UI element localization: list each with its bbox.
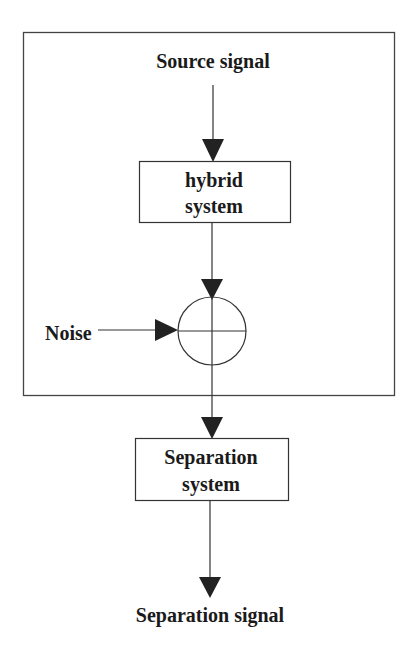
separation-signal-label: Separation signal <box>136 604 285 627</box>
signal-separation-diagram: Source signal hybrid system Noise Separa… <box>0 0 406 654</box>
separation-system-label-line2: system <box>182 473 240 496</box>
hybrid-system-block: hybrid system <box>140 162 291 223</box>
separation-system-block: Separation system <box>136 439 289 501</box>
arrow-hybrid-to-junction <box>201 222 223 300</box>
summing-junction <box>178 297 246 365</box>
separation-system-label-line1: Separation <box>164 446 257 469</box>
arrowhead-icon <box>202 139 224 162</box>
noise-label: Noise <box>45 322 92 344</box>
arrowhead-icon <box>201 417 223 439</box>
arrowhead-icon <box>155 319 178 341</box>
arrow-source-to-hybrid <box>202 85 224 162</box>
hybrid-system-label-line2: system <box>185 195 243 218</box>
hybrid-system-label-line1: hybrid <box>185 169 243 192</box>
source-signal-label: Source signal <box>156 50 270 73</box>
arrow-junction-to-separation <box>201 365 223 439</box>
arrowhead-icon <box>199 577 221 598</box>
arrow-separation-to-output <box>199 500 221 598</box>
arrow-noise-to-junction <box>98 319 178 341</box>
